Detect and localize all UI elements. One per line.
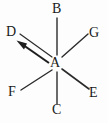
- bond-a-e: [62, 69, 89, 89]
- arrowhead-icon: [17, 41, 28, 50]
- atom-label-b: B: [52, 2, 61, 16]
- atom-label-e: E: [89, 86, 98, 100]
- atom-label-g: G: [89, 26, 99, 40]
- chemical-structure-figure: B G D A F E C: [0, 0, 108, 123]
- atom-label-c: C: [52, 103, 61, 117]
- atom-label-f: F: [8, 85, 16, 99]
- bond-a-g: [62, 34, 88, 57]
- atom-label-a-center: A: [50, 56, 60, 70]
- atom-label-d: D: [6, 25, 16, 39]
- arrow-shaft: [23, 45, 50, 64]
- bond-a-f: [21, 70, 52, 90]
